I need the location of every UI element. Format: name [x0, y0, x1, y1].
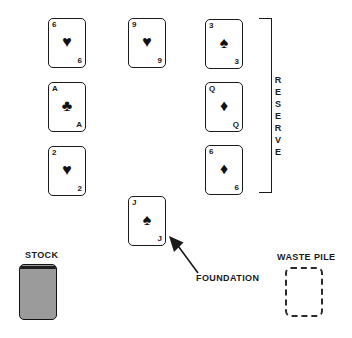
stock-pile[interactable]	[19, 264, 57, 320]
waste-pile-placeholder[interactable]	[285, 267, 323, 317]
card-rank-bottom: 9	[158, 57, 162, 65]
waste-pile-label: WASTE PILE	[277, 252, 336, 262]
card-2-hearts[interactable]: 2 ♥ 2	[48, 146, 86, 196]
card-ace-clubs[interactable]: A ♣ A	[48, 82, 86, 132]
card-rank-top: J	[132, 199, 136, 207]
stock-label: STOCK	[25, 250, 58, 260]
card-rank-bottom: A	[76, 121, 82, 129]
spades-suit-icon: ♠	[206, 35, 242, 51]
card-rank-bottom: 6	[235, 184, 239, 192]
card-rank-top: 9	[132, 21, 136, 29]
foundation-label: FOUNDATION	[196, 273, 259, 283]
card-rank-top: Q	[209, 85, 215, 93]
hearts-suit-icon: ♥	[49, 34, 85, 50]
card-queen-diamonds[interactable]: Q ♦ Q	[205, 82, 243, 132]
card-rank-bottom: 3	[235, 58, 239, 66]
hearts-suit-icon: ♥	[129, 34, 165, 50]
card-rank-top: 6	[52, 21, 56, 29]
card-rank-top: 6	[209, 148, 213, 156]
reserve-label: RESERVE	[273, 75, 283, 159]
card-rank-bottom: 6	[78, 57, 82, 65]
diamonds-suit-icon: ♦	[206, 161, 242, 177]
solitaire-layout-diagram: 6 ♥ 6 9 ♥ 9 3 ♠ 3 A ♣ A Q ♦ Q 2 ♥ 2 6 ♦ …	[0, 0, 352, 338]
diamonds-suit-icon: ♦	[206, 98, 242, 114]
card-3-spades[interactable]: 3 ♠ 3	[205, 19, 243, 69]
card-rank-top: A	[52, 85, 58, 93]
card-rank-bottom: 2	[78, 185, 82, 193]
card-jack-spades-foundation[interactable]: J ♠ J	[128, 196, 166, 246]
card-6-diamonds[interactable]: 6 ♦ 6	[205, 145, 243, 195]
card-6-hearts[interactable]: 6 ♥ 6	[48, 18, 86, 68]
card-rank-top: 2	[52, 149, 56, 157]
card-rank-bottom: Q	[233, 121, 239, 129]
card-rank-top: 3	[209, 22, 213, 30]
stock-card-back-edge	[20, 266, 56, 269]
hearts-suit-icon: ♥	[49, 162, 85, 178]
reserve-bracket	[259, 18, 272, 193]
card-9-hearts[interactable]: 9 ♥ 9	[128, 18, 166, 68]
spades-suit-icon: ♠	[129, 212, 165, 228]
clubs-suit-icon: ♣	[49, 98, 85, 114]
